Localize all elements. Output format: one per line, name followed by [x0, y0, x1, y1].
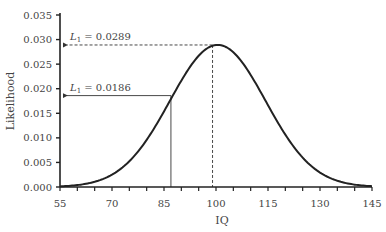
y-tick-label: 0.030 [23, 34, 52, 45]
y-tick-label: 0.035 [23, 10, 52, 21]
y-ticks: 0.0000.0050.0100.0150.0200.0250.0300.035 [23, 10, 60, 193]
likelihood-curve [60, 45, 372, 186]
x-tick-label: 55 [54, 198, 67, 209]
annotation-label: L1 = 0.0289 [69, 31, 131, 44]
y-tick-label: 0.015 [23, 108, 52, 119]
x-tick-label: 85 [158, 198, 171, 209]
x-tick-label: 145 [362, 198, 381, 209]
annotation-label-value: = 0.0186 [81, 82, 131, 93]
annotation-layer: L1 = 0.0289L1 = 0.0186 [67, 31, 213, 187]
x-tick-label: 70 [106, 198, 119, 209]
x-tick-label: 130 [310, 198, 329, 209]
likelihood-chart: L1 = 0.0289L1 = 0.0186 0.0000.0050.0100.… [0, 0, 386, 232]
y-tick-label: 0.005 [23, 157, 52, 168]
y-tick-label: 0.020 [23, 83, 52, 94]
y-tick-label: 0.010 [23, 132, 52, 143]
annotation-label-value: = 0.0289 [81, 31, 131, 42]
annotation-label: L1 = 0.0186 [69, 82, 131, 95]
x-ticks: 557085100115130145 [54, 187, 382, 209]
y-tick-label: 0.000 [23, 182, 52, 193]
x-axis-title: IQ [215, 214, 228, 227]
x-tick-label: 115 [258, 198, 277, 209]
y-axis-title: Likelihood [4, 72, 17, 130]
x-tick-label: 100 [206, 198, 225, 209]
y-tick-label: 0.025 [23, 59, 52, 70]
